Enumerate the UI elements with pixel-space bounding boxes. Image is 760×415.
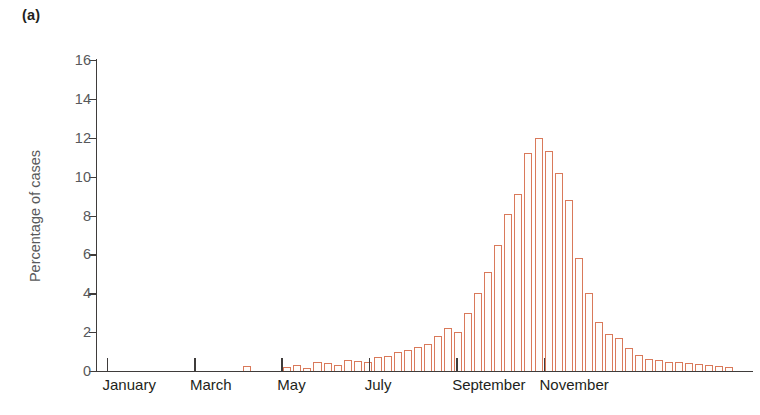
- x-axis-tick-mark: [369, 358, 371, 372]
- y-axis-tick-label: 8: [83, 206, 91, 226]
- x-axis-tick-label: July: [365, 376, 392, 393]
- bar: [524, 153, 532, 371]
- y-axis-tick-label: 10: [75, 167, 91, 187]
- bar: [484, 272, 492, 371]
- bar: [504, 214, 512, 371]
- plot-area: Percentage of cases 0246810121416: [97, 60, 752, 371]
- y-axis-tick-label: 12: [75, 128, 91, 148]
- bar: [514, 194, 522, 371]
- x-axis-tick-mark: [544, 358, 546, 372]
- y-axis-tick-label: 2: [83, 322, 91, 342]
- x-axis-tick-mark: [281, 358, 283, 372]
- y-axis-title: Percentage of cases: [27, 149, 43, 281]
- bar: [494, 245, 502, 371]
- x-axis-tick-mark: [194, 358, 196, 372]
- y-axis-tick-label: 6: [83, 244, 91, 264]
- bar: [575, 258, 583, 371]
- y-axis-tick-label: 16: [75, 50, 91, 70]
- x-axis-tick-mark: [456, 358, 458, 372]
- x-axis-tick-label: September: [452, 376, 525, 393]
- bar: [565, 200, 573, 371]
- figure-panel-a: (a) Percentage of cases 0246810121416 Ja…: [0, 0, 760, 415]
- y-axis-tick-label: 4: [83, 283, 91, 303]
- y-axis-tick-label: 14: [75, 89, 91, 109]
- x-axis-tick-label: November: [540, 376, 609, 393]
- x-axis-tick-label: January: [103, 376, 156, 393]
- x-axis-tick-label: May: [277, 376, 305, 393]
- bar: [555, 173, 563, 371]
- x-axis-tick-label: March: [190, 376, 232, 393]
- x-axis-tick-mark: [107, 358, 109, 372]
- bar: [545, 151, 553, 371]
- panel-label: (a): [22, 7, 40, 23]
- y-axis-tick-label: 0: [83, 361, 91, 381]
- x-axis-ticks: [97, 358, 752, 372]
- bar: [535, 138, 543, 371]
- x-axis-labels: JanuaryMarchMayJulySeptemberNovember: [97, 376, 757, 402]
